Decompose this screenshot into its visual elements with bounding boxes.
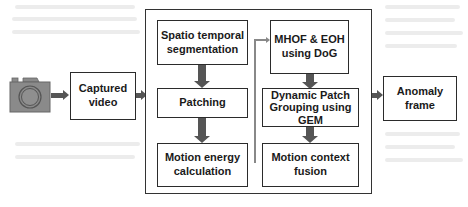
arrow-processing-to-anomaly bbox=[372, 93, 378, 98]
patching-label: Patching bbox=[179, 96, 225, 110]
mhof-eoh-dog-box: MHOF & EOH using DoG bbox=[270, 20, 349, 74]
arrow-camera-to-video bbox=[51, 93, 64, 98]
motion-context-fusion-label: Motion context fusion bbox=[271, 151, 349, 179]
arrow-patching-to-motion-energy bbox=[198, 118, 206, 137]
dynamic-patch-grouping-label: Dynamic Patch Grouping using GEM bbox=[270, 89, 352, 125]
arrow-segmentation-to-patching bbox=[198, 65, 206, 82]
captured-video-label: Captured video bbox=[79, 82, 127, 110]
dynamic-patch-grouping-box: Dynamic Patch Grouping using GEM bbox=[262, 88, 359, 127]
anomaly-frame-label: Anomaly frame bbox=[397, 85, 443, 113]
patching-box: Patching bbox=[157, 88, 248, 118]
camera-icon bbox=[9, 76, 51, 114]
arrow-dynamic-patch-to-fusion bbox=[306, 127, 314, 137]
anomaly-frame-box: Anomaly frame bbox=[383, 76, 457, 121]
mhof-eoh-dog-label: MHOF & EOH using DoG bbox=[274, 33, 344, 61]
captured-video-box: Captured video bbox=[70, 72, 136, 120]
motion-energy-calculation-label: Motion energy calculation bbox=[165, 151, 240, 179]
spatio-temporal-segmentation-box: Spatio temporal segmentation bbox=[157, 20, 248, 65]
connector-line-vertical bbox=[254, 39, 256, 163]
arrow-video-to-processing bbox=[136, 93, 142, 98]
arrow-mhof-to-dynamic-patch bbox=[306, 74, 314, 83]
motion-context-fusion-box: Motion context fusion bbox=[262, 143, 359, 187]
spatio-temporal-segmentation-label: Spatio temporal segmentation bbox=[161, 29, 244, 57]
motion-energy-calculation-box: Motion energy calculation bbox=[157, 143, 248, 187]
